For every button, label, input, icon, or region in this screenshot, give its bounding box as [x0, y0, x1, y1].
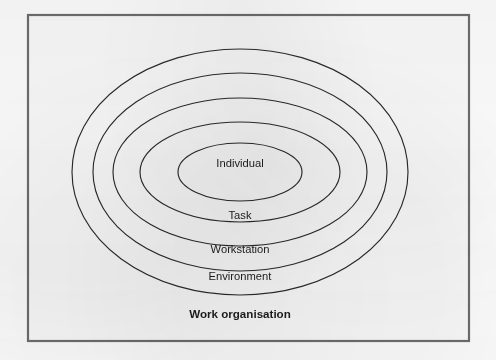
figure-root: Individual Task Workstation Environment …	[0, 0, 496, 360]
ring-label-environment: Environment	[209, 270, 273, 282]
ring-label-task: Task	[228, 209, 251, 221]
ring-label-work-organisation: Work organisation	[189, 307, 291, 320]
diagram-border-frame	[28, 15, 469, 341]
ring-label-workstation: Workstation	[211, 243, 270, 255]
ring-label-individual: Individual	[216, 157, 263, 169]
concentric-ellipse-diagram: Individual Task Workstation Environment …	[0, 0, 496, 360]
